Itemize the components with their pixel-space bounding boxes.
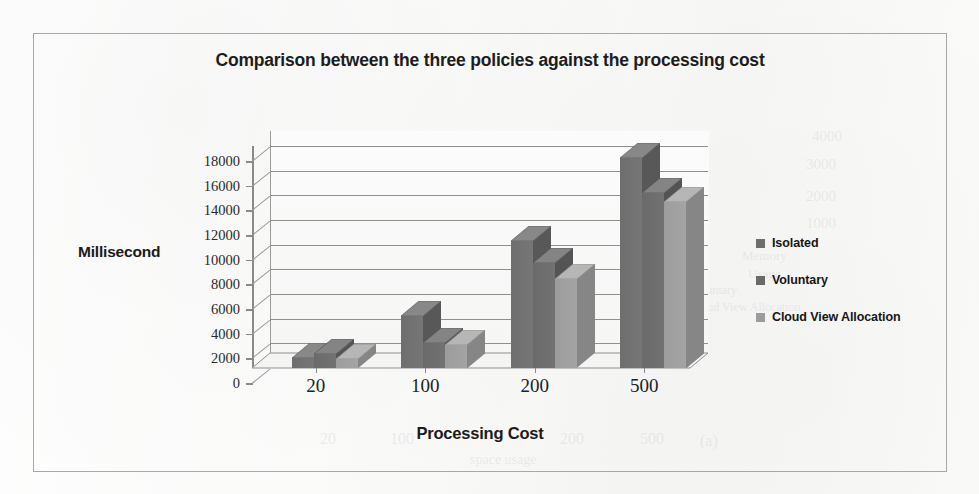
bar-front-face: [511, 241, 533, 368]
y-axis-tick-label: 12000: [204, 227, 240, 244]
y-axis-tick: [246, 334, 253, 336]
bar-front-face: [445, 345, 467, 368]
bar-front-face: [292, 358, 314, 368]
y-axis-tick-label: 4000: [211, 325, 240, 342]
y-axis-tick: [246, 284, 253, 286]
bar: [555, 279, 577, 368]
chart-legend: IsolatedVoluntaryCloud View Allocation: [756, 236, 900, 347]
bar-front-face: [620, 158, 642, 368]
bar-front-face: [423, 343, 445, 368]
bar-front-face: [642, 193, 664, 368]
legend-item[interactable]: Cloud View Allocation: [756, 310, 900, 324]
y-axis-tick-label: 14000: [204, 202, 240, 219]
legend-color-swatch: [756, 313, 765, 322]
bar-side-face: [358, 344, 376, 368]
depth-riser: [252, 171, 271, 187]
depth-riser: [252, 196, 271, 212]
bar: [401, 316, 423, 368]
y-axis-tick-label: 10000: [204, 251, 240, 268]
y-axis-tick: [246, 235, 253, 237]
bar: [620, 158, 642, 368]
y-axis-tick-label: 6000: [211, 301, 240, 318]
depth-riser: [252, 270, 271, 286]
legend-item-label: Voluntary: [772, 273, 828, 287]
bar: [292, 358, 314, 368]
bar: [664, 202, 686, 369]
bar-side-face: [467, 330, 485, 368]
bar-front-face: [314, 354, 336, 368]
plot-area: 1800016000140001200010000800060004000200…: [252, 131, 708, 368]
bar-side-face: [686, 187, 704, 369]
x-axis-tick-label: 500: [630, 375, 659, 397]
y-axis-tick: [246, 260, 253, 262]
y-axis-tick-label: 18000: [204, 153, 240, 170]
bar: [336, 359, 358, 368]
y-axis-title: Millisecond: [78, 243, 160, 261]
x-axis-title: Processing Cost: [252, 424, 708, 443]
bar: [642, 193, 664, 368]
bar: [314, 354, 336, 368]
bar: [511, 241, 533, 368]
chart-title: Comparison between the three policies ag…: [33, 50, 947, 71]
legend-item[interactable]: Voluntary: [756, 273, 900, 287]
y-axis-tick: [246, 210, 253, 212]
x-axis-tick: [535, 368, 536, 373]
depth-riser: [252, 245, 271, 261]
x-axis-tick-label: 20: [306, 375, 325, 397]
depth-riser: [252, 294, 271, 310]
legend-item-label: Cloud View Allocation: [772, 310, 900, 324]
x-axis-tick: [425, 368, 426, 373]
depth-riser: [252, 319, 271, 335]
bar: [445, 345, 467, 368]
y-axis-tick-label: 16000: [204, 177, 240, 194]
bar-side-face: [577, 264, 595, 368]
depth-riser: [252, 220, 271, 236]
bar-front-face: [401, 316, 423, 368]
bar-front-face: [336, 359, 358, 368]
y-axis-tick: [246, 309, 253, 311]
y-axis-tick-label: 0: [233, 375, 240, 392]
bar: [533, 263, 555, 368]
x-axis-tick-label: 200: [521, 375, 550, 397]
bar-front-face: [533, 263, 555, 368]
y-axis-tick: [246, 186, 253, 188]
bar-front-face: [555, 279, 577, 368]
legend-color-swatch: [756, 276, 765, 285]
x-axis-tick-label: 100: [411, 375, 440, 397]
y-axis-tick-label: 2000: [211, 350, 240, 367]
legend-color-swatch: [756, 239, 765, 248]
x-axis-tick: [644, 368, 645, 373]
bar-front-face: [664, 202, 686, 369]
x-axis-tick: [316, 368, 317, 373]
legend-item[interactable]: Isolated: [756, 236, 900, 250]
y-axis-tick-label: 8000: [211, 276, 240, 293]
legend-item-label: Isolated: [772, 236, 818, 250]
depth-riser: [252, 146, 271, 162]
bar: [423, 343, 445, 368]
y-axis-tick: [246, 161, 253, 163]
